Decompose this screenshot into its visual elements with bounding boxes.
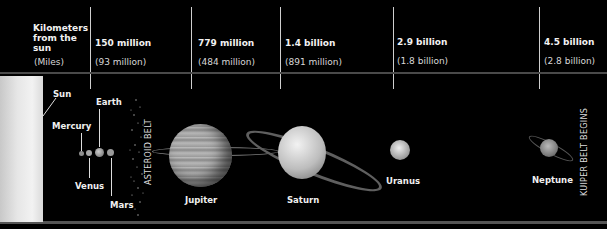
neptune-miles: (2.8 billion) <box>544 56 595 66</box>
mercury-label: Mercury <box>52 121 91 131</box>
jupiter-planet <box>169 124 232 187</box>
neptune-planet <box>540 139 558 157</box>
saturn-miles: (891 million) <box>285 57 342 67</box>
sun-body <box>0 76 43 222</box>
miles-label: (Miles) <box>34 57 64 67</box>
earth-leader <box>99 109 100 147</box>
divider-jupiter <box>191 7 192 89</box>
earth-planet <box>95 148 104 157</box>
earth-miles: (93 million) <box>95 57 146 67</box>
saturn-planet <box>278 126 326 179</box>
bottom-separator <box>0 221 607 224</box>
mars-leader <box>111 158 112 196</box>
venus-label: Venus <box>75 181 104 191</box>
uranus-miles: (1.8 billion) <box>397 56 448 66</box>
header-separator <box>0 72 607 74</box>
neptune-km: 4.5 billion <box>544 37 594 47</box>
saturn-label: Saturn <box>287 195 319 205</box>
jupiter-label: Jupiter <box>185 195 217 205</box>
uranus-planet <box>390 140 410 160</box>
km-label: Kilometers from the sun <box>33 23 83 53</box>
mercury-planet <box>79 151 84 156</box>
mars-planet <box>107 149 114 156</box>
divider-uranus <box>393 7 394 89</box>
kuiper-belt-label: KUIPER BELT BEGINS <box>580 108 589 196</box>
earth-label: Earth <box>96 97 122 107</box>
saturn-km: 1.4 billion <box>285 38 335 48</box>
mercury-leader <box>81 133 82 151</box>
divider-neptune <box>539 7 540 89</box>
asteroid-belt-label: ASTEROID BELT <box>144 119 153 185</box>
neptune-label: Neptune <box>532 175 573 185</box>
venus-leader <box>89 158 90 178</box>
divider-earth <box>90 7 91 89</box>
uranus-label: Uranus <box>386 176 420 186</box>
earth-km: 150 million <box>95 38 151 48</box>
sun-leader-line <box>40 96 60 118</box>
venus-planet <box>86 150 92 156</box>
divider-saturn <box>280 7 281 89</box>
jupiter-miles: (484 million) <box>198 57 255 67</box>
uranus-km: 2.9 billion <box>397 37 447 47</box>
jupiter-km: 779 million <box>198 38 254 48</box>
